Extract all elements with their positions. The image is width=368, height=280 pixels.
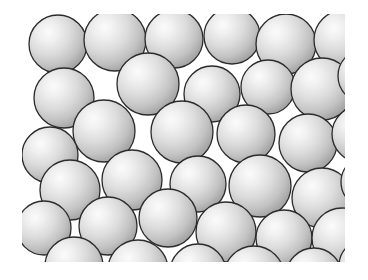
sphere — [217, 105, 275, 163]
sphere — [29, 15, 87, 73]
sphere-layer — [22, 14, 345, 262]
sphere-packing-figure — [22, 14, 345, 262]
sphere — [291, 58, 345, 120]
sphere — [204, 14, 260, 64]
sphere — [139, 189, 197, 247]
sphere — [279, 114, 337, 172]
sphere — [151, 101, 213, 163]
figure-root — [0, 0, 368, 280]
